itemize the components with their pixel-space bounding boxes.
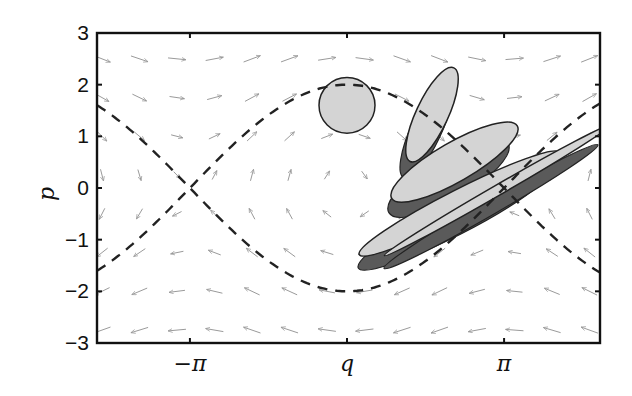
x-tick-label: −π [173,351,206,376]
y-axis-label: p [34,187,59,201]
phase-ellipse [319,77,375,133]
y-tick-label: 0 [77,176,89,199]
y-tick-label: 1 [77,124,89,147]
y-tick-label: −2 [65,279,89,302]
plot-area [94,33,613,343]
y-tick-label: −1 [65,228,89,251]
phase-portrait-chart: 3210−1−2−3 −πqπ p [0,0,632,396]
y-tick-label: −3 [65,331,89,354]
x-tick-label: q [340,351,354,376]
y-tick-label: 2 [77,73,89,96]
y-tick-label: 3 [77,21,89,44]
x-tick-label: π [496,351,512,376]
